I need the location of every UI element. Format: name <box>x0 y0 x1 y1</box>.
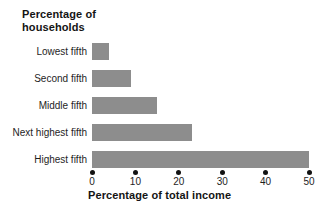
bar-row: Highest fifth <box>0 151 330 168</box>
income-distribution-figure: Percentage of households Lowest fifthSec… <box>0 0 330 220</box>
tick-dot <box>90 170 95 175</box>
tick-dot <box>133 170 138 175</box>
bar <box>92 43 109 60</box>
x-axis-title: Percentage of total income <box>88 189 231 201</box>
tick-dot <box>220 170 225 175</box>
tick-label: 0 <box>77 176 107 187</box>
bar-row: Next highest fifth <box>0 124 330 141</box>
tick-label: 20 <box>164 176 194 187</box>
category-label: Middle fifth <box>0 97 87 114</box>
tick-dot <box>176 170 181 175</box>
bar-row: Second fifth <box>0 70 330 87</box>
category-label: Lowest fifth <box>0 43 87 60</box>
bar <box>92 124 192 141</box>
plot-area: Lowest fifthSecond fifthMiddle fifthNext… <box>0 0 330 220</box>
tick-dot <box>307 170 312 175</box>
tick-label: 10 <box>120 176 150 187</box>
category-label: Second fifth <box>0 70 87 87</box>
bar-row: Middle fifth <box>0 97 330 114</box>
tick-label: 40 <box>251 176 281 187</box>
tick-label: 30 <box>207 176 237 187</box>
category-label: Highest fifth <box>0 151 87 168</box>
bar <box>92 97 157 114</box>
bar-row: Lowest fifth <box>0 43 330 60</box>
tick-dot <box>263 170 268 175</box>
category-label: Next highest fifth <box>0 124 87 141</box>
bar <box>92 151 309 168</box>
tick-label: 50 <box>294 176 324 187</box>
bar <box>92 70 131 87</box>
